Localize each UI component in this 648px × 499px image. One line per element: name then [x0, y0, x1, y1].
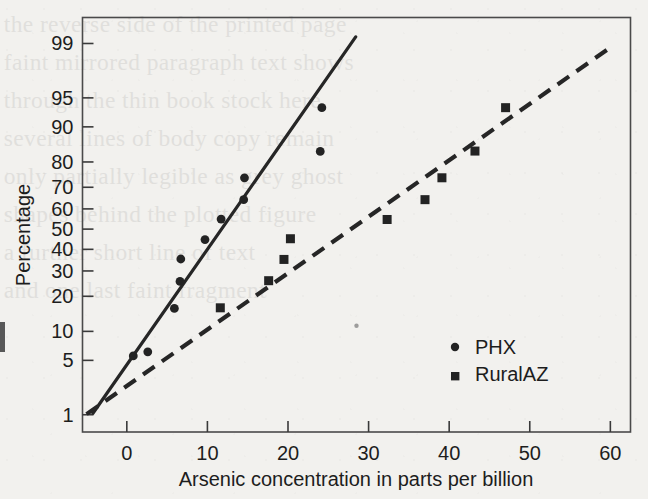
- data-point-ruralaz: [383, 215, 392, 224]
- data-point-ruralaz: [286, 234, 295, 243]
- y-axis-ticks: [83, 43, 94, 414]
- data-point-ruralaz: [279, 255, 288, 264]
- data-point-ruralaz: [216, 303, 225, 312]
- series-points-ruralaz: [216, 103, 510, 312]
- x-tick-label: 60: [599, 442, 621, 464]
- y-tick-label: 99: [51, 32, 73, 54]
- x-axis-title: Arsenic concentration in parts per billi…: [179, 468, 534, 490]
- data-point-ruralaz: [501, 103, 510, 112]
- legend-marker-square-icon: [451, 372, 459, 380]
- data-point-phx: [170, 304, 179, 313]
- data-point-phx: [176, 255, 185, 264]
- fit-lines: [87, 37, 612, 414]
- y-tick-label: 70: [51, 176, 73, 198]
- data-point-phx: [239, 195, 248, 204]
- x-tick-label: 40: [438, 442, 460, 464]
- x-axis-ticks: [127, 421, 611, 432]
- x-tick-label: 50: [519, 442, 541, 464]
- data-point-phx: [176, 277, 185, 286]
- data-point-ruralaz: [264, 276, 273, 285]
- y-tick-label: 20: [51, 285, 73, 307]
- y-tick-label: 90: [51, 116, 73, 138]
- y-tick-label: 60: [51, 198, 73, 220]
- data-point-ruralaz: [437, 173, 446, 182]
- y-axis-title: Percentage: [12, 184, 34, 286]
- scan-specks: [354, 324, 358, 328]
- legend-label-ruralaz: RuralAZ: [475, 363, 548, 385]
- data-point-phx: [317, 103, 326, 112]
- x-tick-label: 10: [196, 442, 218, 464]
- data-point-phx: [129, 352, 138, 361]
- legend-marker-circle-icon: [451, 343, 459, 351]
- y-tick-label: 30: [51, 260, 73, 282]
- y-tick-label: 95: [51, 87, 73, 109]
- chart-legend: PHX RuralAZ: [451, 336, 549, 385]
- data-point-ruralaz: [470, 147, 479, 156]
- data-point-phx: [201, 235, 210, 244]
- scan-speck: [354, 324, 358, 328]
- legend-label-phx: PHX: [475, 336, 516, 358]
- y-axis-tick-labels: 151020304050607080909599: [51, 32, 73, 425]
- data-point-phx: [143, 347, 152, 356]
- chart-canvas: 151020304050607080909599 0102030405060 A…: [0, 0, 648, 499]
- y-tick-label: 5: [62, 349, 73, 371]
- x-tick-label: 30: [357, 442, 379, 464]
- x-tick-label: 0: [121, 442, 132, 464]
- y-tick-label: 10: [51, 320, 73, 342]
- data-point-ruralaz: [421, 195, 430, 204]
- probability-plot: 151020304050607080909599 0102030405060 A…: [0, 0, 648, 499]
- x-tick-label: 20: [277, 442, 299, 464]
- fit-line-ruralaz: [87, 46, 612, 414]
- y-tick-label: 1: [62, 404, 73, 426]
- data-point-phx: [316, 147, 325, 156]
- data-point-phx: [217, 215, 226, 224]
- data-point-phx: [240, 173, 249, 182]
- y-tick-label: 50: [51, 218, 73, 240]
- y-tick-label: 40: [51, 238, 73, 260]
- y-tick-label: 80: [51, 151, 73, 173]
- x-axis-tick-labels: 0102030405060: [121, 442, 621, 464]
